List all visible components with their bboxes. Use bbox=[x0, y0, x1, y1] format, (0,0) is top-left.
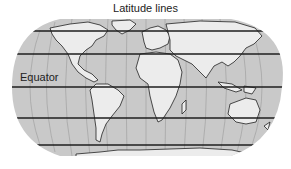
equator-label: Equator bbox=[20, 71, 59, 83]
world-map bbox=[0, 0, 291, 169]
